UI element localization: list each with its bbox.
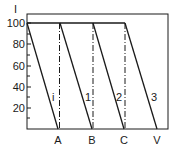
y-tick-60: 60 xyxy=(13,60,25,72)
line-1 xyxy=(60,23,92,129)
line-label-3: 3 xyxy=(151,91,157,103)
line-3 xyxy=(125,23,157,129)
line-label-2: 2 xyxy=(116,91,122,103)
y-tick-20: 20 xyxy=(13,102,25,114)
x-label-c: C xyxy=(120,134,128,146)
y-axis-label: I xyxy=(14,3,17,15)
line-label-i: i xyxy=(52,91,54,103)
voltage-current-diagram: I 100 80 60 40 20 A B C V i 1 2 3 xyxy=(0,0,177,149)
outer-frame xyxy=(27,14,168,129)
characteristic-lines xyxy=(27,23,157,129)
y-tick-40: 40 xyxy=(13,81,25,93)
y-tick-100: 100 xyxy=(7,17,25,29)
x-label-v: V xyxy=(153,134,161,146)
line-label-1: 1 xyxy=(85,91,91,103)
dash-dot-verticals xyxy=(60,23,126,129)
y-axis-ticks xyxy=(27,23,31,118)
x-label-a: A xyxy=(54,134,62,146)
line-2 xyxy=(93,23,124,129)
x-label-b: B xyxy=(88,134,95,146)
line-i xyxy=(27,23,58,129)
y-tick-80: 80 xyxy=(13,38,25,50)
